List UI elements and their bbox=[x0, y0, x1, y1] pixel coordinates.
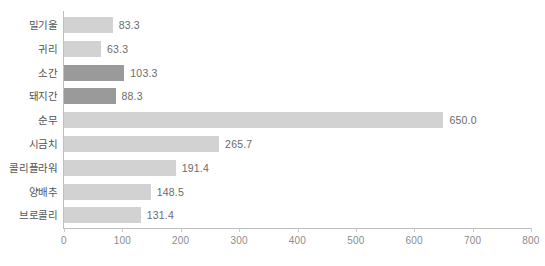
plot-area: 0100200300400500600700800 밀기울83.3귀리63.3소… bbox=[0, 0, 545, 266]
bar-row[interactable]: 양배추148.5 bbox=[0, 180, 545, 204]
bar-chart: ················ 01002003004005006007008… bbox=[0, 0, 545, 266]
category-label: 양배추 bbox=[29, 180, 58, 204]
x-tick-mark bbox=[473, 228, 474, 232]
bar[interactable] bbox=[64, 184, 151, 200]
bar[interactable] bbox=[64, 136, 219, 152]
bar-row[interactable]: 귀리63.3 bbox=[0, 37, 545, 61]
bar[interactable] bbox=[64, 17, 113, 33]
bar[interactable] bbox=[64, 88, 116, 104]
x-tick-mark bbox=[414, 228, 415, 232]
bar[interactable] bbox=[64, 41, 101, 57]
category-label: 시금치 bbox=[29, 132, 58, 156]
bar-value-label: 131.4 bbox=[147, 203, 174, 227]
x-tick-label: 700 bbox=[464, 235, 481, 246]
x-tick-label: 500 bbox=[347, 235, 364, 246]
x-tick-label: 100 bbox=[114, 235, 131, 246]
x-tick-mark bbox=[181, 228, 182, 232]
bar-row[interactable]: 소간103.3 bbox=[0, 61, 545, 85]
bar-row[interactable]: 콜리플라워191.4 bbox=[0, 156, 545, 180]
category-label: 순무 bbox=[38, 108, 58, 132]
category-label: 소간 bbox=[38, 61, 58, 85]
x-tick-mark bbox=[531, 228, 532, 232]
x-tick-label: 0 bbox=[61, 235, 67, 246]
x-tick-mark bbox=[122, 228, 123, 232]
bar[interactable] bbox=[64, 65, 124, 81]
category-label: 밀기울 bbox=[29, 13, 58, 37]
x-tick-mark bbox=[356, 228, 357, 232]
category-label: 브로콜리 bbox=[19, 203, 58, 227]
x-tick-mark bbox=[298, 228, 299, 232]
bar-value-label: 265.7 bbox=[225, 132, 252, 156]
bar-row[interactable]: 브로콜리131.4 bbox=[0, 203, 545, 227]
bar-value-label: 88.3 bbox=[122, 84, 143, 108]
bar-value-label: 148.5 bbox=[157, 180, 184, 204]
bar-row[interactable]: 시금치265.7 bbox=[0, 132, 545, 156]
bar-row[interactable]: 밀기울83.3 bbox=[0, 13, 545, 37]
x-tick-label: 800 bbox=[522, 235, 539, 246]
category-label: 콜리플라워 bbox=[9, 156, 58, 180]
x-tick-mark bbox=[239, 228, 240, 232]
x-tick-label: 300 bbox=[230, 235, 247, 246]
bar-value-label: 83.3 bbox=[119, 13, 140, 37]
category-label: 귀리 bbox=[38, 37, 58, 61]
bar-value-label: 63.3 bbox=[107, 37, 128, 61]
bar[interactable] bbox=[64, 207, 141, 223]
bar[interactable] bbox=[64, 112, 443, 128]
bar-value-label: 191.4 bbox=[182, 156, 209, 180]
bar-row[interactable]: 순무650.0 bbox=[0, 108, 545, 132]
x-tick-label: 600 bbox=[406, 235, 423, 246]
x-tick-label: 200 bbox=[172, 235, 189, 246]
x-tick-label: 400 bbox=[289, 235, 306, 246]
category-label: 돼지간 bbox=[29, 84, 58, 108]
bar-row[interactable]: 돼지간88.3 bbox=[0, 84, 545, 108]
bar-value-label: 650.0 bbox=[449, 108, 476, 132]
x-tick-mark bbox=[64, 228, 65, 232]
bar-value-label: 103.3 bbox=[130, 61, 157, 85]
bar[interactable] bbox=[64, 160, 176, 176]
